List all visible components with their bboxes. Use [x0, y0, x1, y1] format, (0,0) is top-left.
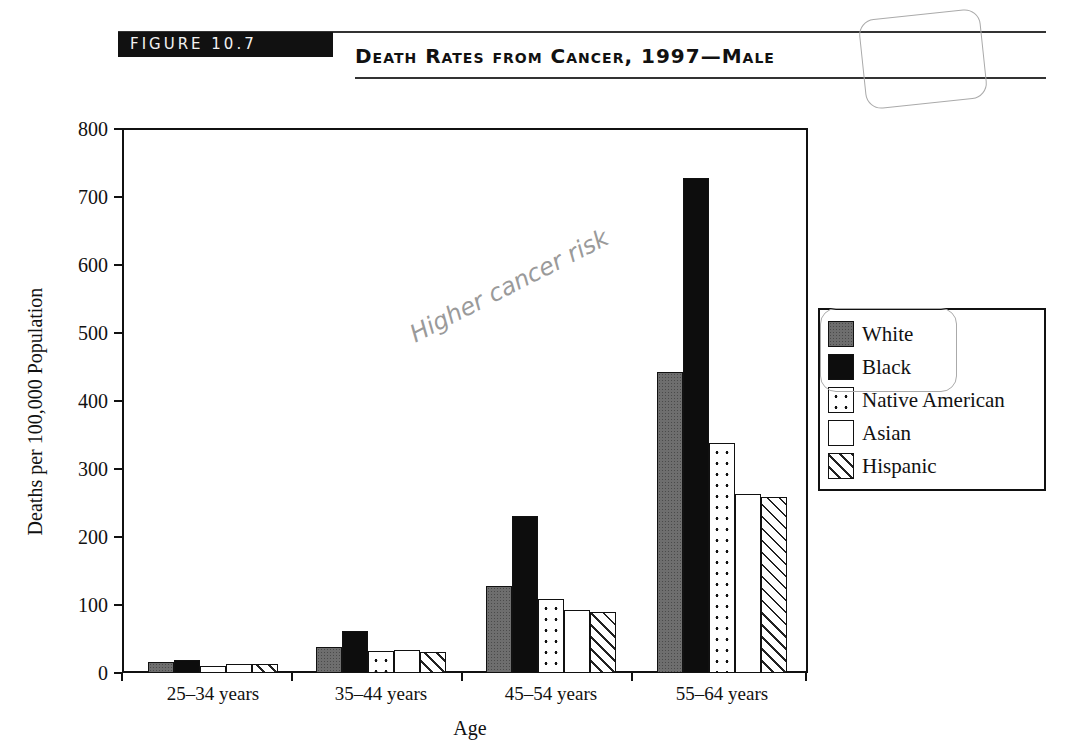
- bar-native-american: [709, 443, 735, 673]
- bar-native-american: [538, 599, 564, 673]
- x-tick-mark: [121, 672, 123, 681]
- bar-white: [316, 647, 342, 673]
- bar-asian: [564, 610, 590, 673]
- bar-asian: [226, 664, 252, 673]
- legend-item: Hispanic: [828, 452, 937, 480]
- y-tick-label: 300: [48, 459, 108, 479]
- y-tick-mark: [114, 536, 122, 538]
- y-tick-mark: [114, 264, 122, 266]
- legend-item: Asian: [828, 419, 911, 447]
- bar-black: [683, 178, 709, 673]
- y-tick-label: 800: [48, 119, 108, 139]
- x-axis-title: Age: [420, 717, 520, 740]
- y-tick-label: 500: [48, 323, 108, 343]
- bar-black: [342, 631, 368, 673]
- x-category-label: 25–34 years: [128, 683, 298, 705]
- bar-black: [512, 516, 538, 673]
- x-category-label: 35–44 years: [296, 683, 466, 705]
- bar-white: [148, 662, 174, 673]
- legend-swatch-icon: [828, 453, 854, 479]
- bar-hispanic: [252, 664, 278, 673]
- x-category-label: 45–54 years: [466, 683, 636, 705]
- y-axis-title: Deaths per 100,000 Population: [24, 267, 47, 557]
- x-tick-mark: [291, 672, 293, 681]
- x-tick-mark: [631, 672, 633, 681]
- bar-asian: [735, 494, 761, 673]
- y-tick-mark: [114, 468, 122, 470]
- y-tick-mark: [114, 332, 122, 334]
- y-tick-label: 400: [48, 391, 108, 411]
- bar-native-american: [368, 651, 394, 673]
- legend-label: Hispanic: [862, 454, 937, 479]
- y-tick-label: 100: [48, 595, 108, 615]
- bar-black: [174, 660, 200, 673]
- y-tick-label: 0: [48, 663, 108, 683]
- x-tick-mark: [805, 672, 807, 681]
- figure-title: Death Rates from Cancer, 1997—Male: [355, 44, 775, 68]
- figure-label: FIGURE 10.7: [118, 32, 333, 57]
- bar-white: [657, 372, 683, 673]
- y-tick-label: 200: [48, 527, 108, 547]
- y-tick-mark: [114, 128, 122, 130]
- pencil-circle-title: [858, 8, 989, 110]
- bar-hispanic: [420, 652, 446, 673]
- bar-hispanic: [590, 612, 616, 673]
- y-tick-label: 700: [48, 187, 108, 207]
- y-tick-mark: [114, 604, 122, 606]
- bar-hispanic: [761, 497, 787, 673]
- y-tick-mark: [114, 196, 122, 198]
- legend-swatch-icon: [828, 420, 854, 446]
- bar-native-american: [200, 666, 226, 673]
- pencil-circle-legend: [820, 308, 957, 392]
- y-tick-label: 600: [48, 255, 108, 275]
- x-category-label: 55–64 years: [637, 683, 807, 705]
- legend-label: Asian: [862, 421, 911, 446]
- bar-white: [486, 586, 512, 673]
- bar-asian: [394, 650, 420, 673]
- x-tick-mark: [461, 672, 463, 681]
- y-tick-mark: [114, 400, 122, 402]
